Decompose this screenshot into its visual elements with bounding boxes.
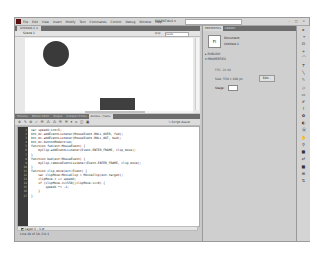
code-text: myClip.addEventListener(Event.ENTER_FRAM… [28,148,136,152]
properties-panel: PROPERTIES LIBRARY Fl Document Untitled-… [202,26,296,241]
circle-movieclip[interactable] [43,41,69,67]
menu-text[interactable]: Text [80,20,86,24]
tool-icon[interactable]: T [297,62,310,69]
tool-icon[interactable]: ✐ [297,98,310,105]
code-text: } [28,194,33,198]
tool-icon[interactable]: ⚲ [297,141,310,148]
line-number: 17 [18,194,28,198]
menu-insert[interactable]: Insert [53,20,62,24]
flash-logo-icon [16,19,21,24]
tool-icon[interactable]: ⌇ [297,105,310,112]
workspace-switcher[interactable]: ESSENTIALS ▾ [155,19,176,23]
button-rectangle[interactable] [100,98,135,110]
tool-icon[interactable]: ⇄ [297,155,310,162]
menu-debug[interactable]: Debug [125,20,135,24]
menu-control[interactable]: Control [111,20,122,24]
document-filename: Untitled-1 [224,42,239,46]
menu-window[interactable]: Window [139,20,151,24]
stage-color-label: Stage: [215,86,225,90]
actions-toolbar-icons[interactable]: ⊕ ✎ ⊕ ✓ ☰ ⁂ ⁂ ☰ ☰ ▾ ⌂ ◫ ▣ [18,119,90,125]
tool-icon[interactable]: ■ [297,148,310,155]
stage-vertical-scrollbar[interactable] [195,38,199,110]
tool-icon[interactable]: ⌖ [297,33,310,40]
edit-symbol-icon[interactable]: ⛭ ⛭ [155,31,160,36]
tools-panel: ▸⌖⊡✧⌒T╲✎◇▭✐⌇✿◐⦿✋⚲■⇄■⊞⇅ [296,26,310,241]
stage-size: Size: 550 x 400 px [215,77,243,81]
tab-properties[interactable]: PROPERTIES [203,26,223,31]
fps-value[interactable]: FPS: 24.00 [215,68,231,72]
actions-toolbar: ⊕ ✎ ⊕ ✓ ☰ ⁂ ⁂ ☰ ☰ ▾ ⌂ ◫ ▣ ✎ Script Assis… [15,119,200,126]
scroll-thumb[interactable] [85,111,145,113]
script-navigator[interactable]: ◩ Layer 1 : 1 ⇄ [17,226,198,231]
menu-modify[interactable]: Modify [66,20,76,24]
help-search-input[interactable] [185,19,242,25]
flash-window: File Edit View Insert Modify Text Comman… [14,17,310,242]
document-label: Document [224,36,240,40]
menu-commands[interactable]: Commands [90,20,107,24]
menu-file[interactable]: File [23,20,28,24]
stage-color-swatch[interactable] [228,85,238,91]
cursor-status: Line 18 of 18, Col 1 [17,232,201,237]
menu-view[interactable]: View [42,20,49,24]
stage[interactable] [25,38,193,111]
tool-icon[interactable]: ✎ [297,76,310,83]
code-line[interactable]: 17} [18,194,199,198]
stage-horizontal-scrollbar[interactable] [25,111,193,113]
tool-icon[interactable]: ◐ [297,119,310,126]
tool-icon[interactable]: ■ [297,163,310,170]
code-text: myClip.removeEventListener(Event.ENTER_F… [28,161,141,165]
tool-icon[interactable]: ✧ [297,48,310,55]
tool-icon[interactable]: ▸ [297,26,310,33]
publish-section[interactable]: ▸ PUBLISH [205,52,220,56]
tool-icon[interactable]: ▭ [297,91,310,98]
scene-label[interactable]: Scene 1 [23,31,35,36]
tool-icon[interactable]: ✿ [297,112,310,119]
window-controls[interactable]: – □ × [288,19,307,23]
tool-icon[interactable]: ⊞ [297,170,310,177]
menu-bar: File Edit View Insert Modify Text Comman… [15,18,309,26]
tool-icon[interactable]: ⦿ [297,127,310,134]
properties-section[interactable]: ▾ PROPERTIES [205,57,226,61]
code-editor[interactable]: 1var speedX:int=5;2btn_mc.addEventListen… [17,126,200,227]
edit-size-button[interactable]: Edit... [259,75,275,82]
tool-icon[interactable]: ✋ [297,134,310,141]
tool-icon[interactable]: ⊡ [297,40,310,47]
properties-tab-bar: PROPERTIES LIBRARY [203,26,296,31]
script-assist-button[interactable]: ✎ Script Assist [168,119,190,125]
stage-area [15,37,200,113]
tool-icon[interactable]: ╲ [297,69,310,76]
tab-library[interactable]: LIBRARY [223,26,238,31]
code-lines: 1var speedX:int=5;2btn_mc.addEventListen… [18,128,199,198]
document-icon: Fl [208,35,221,48]
tool-icon[interactable]: ⌒ [297,55,310,62]
tool-icon[interactable]: ⇅ [297,177,310,184]
menu-edit[interactable]: Edit [32,20,38,24]
tool-icon[interactable]: ◇ [297,84,310,91]
